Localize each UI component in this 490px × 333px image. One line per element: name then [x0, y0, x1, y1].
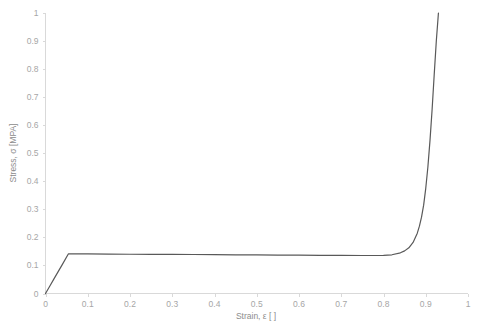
x-tick-label: 0.6	[293, 299, 305, 309]
y-tick-label: 0.8	[27, 64, 39, 74]
y-tick-label: 0.2	[27, 232, 39, 242]
y-tick-label: 1	[34, 8, 39, 18]
y-axis-title: Stress, σ [MPA]	[8, 124, 18, 183]
x-tick-label: 1	[466, 299, 471, 309]
x-tick-label: 0.9	[420, 299, 432, 309]
chart-canvas: 00.10.20.30.40.50.60.70.80.91 00.10.20.3…	[0, 0, 490, 333]
x-tick-label: 0.3	[166, 299, 178, 309]
x-axis-title: Strain, ε [ ]	[236, 311, 276, 321]
stress-strain-chart: 00.10.20.30.40.50.60.70.80.91 00.10.20.3…	[0, 0, 490, 333]
x-tick-label: 0.4	[209, 299, 221, 309]
x-tick-label: 0.8	[378, 299, 390, 309]
y-tick-label: 0.1	[27, 260, 39, 270]
x-tick-label: 0.7	[335, 299, 347, 309]
y-tick-label: 0.7	[27, 92, 39, 102]
x-tick-label: 0.1	[82, 299, 94, 309]
y-tick-label: 0	[34, 289, 39, 299]
x-tick-label: 0	[43, 299, 48, 309]
chart-background	[0, 0, 490, 333]
x-tick-label: 0.2	[124, 299, 136, 309]
y-tick-label: 0.3	[27, 204, 39, 214]
x-tick-label: 0.5	[251, 299, 263, 309]
y-tick-label: 0.6	[27, 120, 39, 130]
y-tick-label: 0.4	[27, 176, 39, 186]
y-tick-label: 0.9	[27, 36, 39, 46]
y-tick-label: 0.5	[27, 148, 39, 158]
